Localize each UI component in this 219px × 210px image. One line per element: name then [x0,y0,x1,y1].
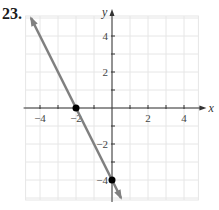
y-tick-label: −2 [96,138,108,150]
y-tick-label: 2 [103,66,109,78]
intercept-point [109,177,116,184]
x-axis-label: x [207,101,214,115]
coordinate-plane: −4−22442−2−4xy [0,0,219,210]
y-axis-arrow-icon [110,9,115,16]
y-tick-label: 4 [103,30,109,42]
x-tick-label: 2 [145,112,151,124]
y-axis-label: y [101,5,108,19]
x-axis-arrow-icon [199,106,206,111]
y-tick-label: −4 [96,174,108,186]
x-tick-label: 4 [181,112,187,124]
intercept-point [73,105,80,112]
x-tick-label: −4 [34,112,46,124]
